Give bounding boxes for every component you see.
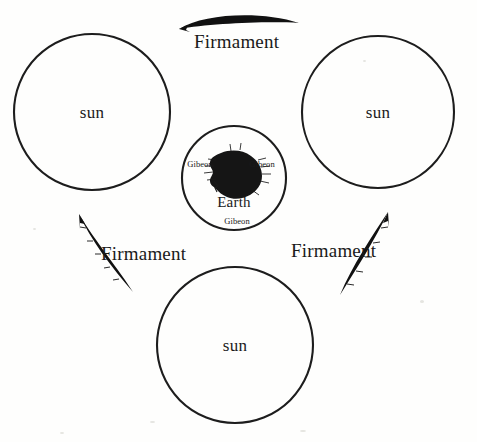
firmament-label-top: Firmament [194, 32, 279, 51]
firmament-label-lower-right: Firmament [291, 241, 376, 260]
sun-label-top-left: sun [80, 104, 105, 121]
diagram-canvas: sun sun sun Firmament Firmament Firmamen… [0, 0, 477, 442]
sun-label-top-right: sun [366, 104, 391, 121]
firmament-label-lower-left: Firmament [101, 244, 186, 263]
earth-label: Earth [217, 195, 250, 210]
sun-label-bottom: sun [223, 337, 248, 354]
gibeon-label-bottom: Gibeon [224, 217, 250, 226]
firmament-arrowhead-lower-left [79, 214, 85, 229]
firmament-arc-top [179, 15, 299, 29]
gibeon-label-left: Gibeon [187, 160, 213, 169]
gibeon-label-right: Gibeon [249, 160, 275, 169]
